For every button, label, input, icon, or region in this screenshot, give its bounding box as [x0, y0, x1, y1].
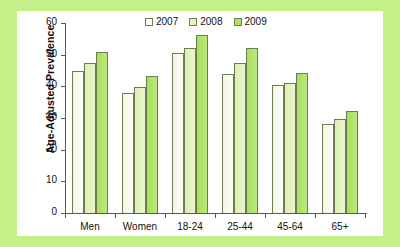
bar-2007-women[interactable]	[122, 93, 134, 213]
y-tick-label-20: 20	[17, 143, 57, 154]
y-tick-label-50: 50	[17, 48, 57, 59]
x-axis-label-18-24: 18-24	[165, 221, 215, 232]
bar-2007-65-[interactable]	[322, 124, 334, 213]
bar-groups	[65, 23, 365, 213]
x-tick-0	[65, 213, 66, 218]
bar-2007-45-64[interactable]	[272, 85, 284, 213]
bar-2007-men[interactable]	[72, 71, 84, 214]
bar-group-women	[115, 23, 165, 213]
y-tick-label-0: 0	[17, 206, 57, 217]
bar-2008-women[interactable]	[134, 87, 146, 213]
bar-2009-65-[interactable]	[346, 111, 358, 213]
chart-panel: Age-Adjusted Prevalence 2007 2008 2009 0…	[17, 11, 383, 236]
x-axis-label-women: Women	[115, 221, 165, 232]
bar-2008-men[interactable]	[84, 63, 96, 213]
x-axis-label-25-44: 25-44	[215, 221, 265, 232]
x-axis-label-65-: 65+	[315, 221, 365, 232]
y-tick-label-60: 60	[17, 16, 57, 27]
y-tick-label-30: 30	[17, 111, 57, 122]
x-tick-2	[165, 213, 166, 218]
bar-2008-45-64[interactable]	[284, 83, 296, 213]
x-axis-label-men: Men	[65, 221, 115, 232]
bar-2009-25-44[interactable]	[246, 48, 258, 213]
bar-2009-men[interactable]	[96, 52, 108, 214]
bar-group-25-44	[215, 23, 265, 213]
bar-2007-25-44[interactable]	[222, 74, 234, 213]
bar-2009-18-24[interactable]	[196, 35, 208, 213]
bar-2008-65-[interactable]	[334, 119, 346, 213]
plot-area	[65, 23, 365, 213]
bar-group-65-	[315, 23, 365, 213]
bar-group-18-24	[165, 23, 215, 213]
chart-figure: Age-Adjusted Prevalence 2007 2008 2009 0…	[0, 0, 400, 247]
bar-2008-18-24[interactable]	[184, 48, 196, 213]
x-tick-3	[215, 213, 216, 218]
x-axis-label-45-64: 45-64	[265, 221, 315, 232]
x-axis-line	[65, 213, 367, 214]
bar-2008-25-44[interactable]	[234, 63, 246, 213]
bar-2009-women[interactable]	[146, 76, 158, 213]
bar-group-men	[65, 23, 115, 213]
bar-2009-45-64[interactable]	[296, 73, 308, 213]
x-tick-1	[115, 213, 116, 218]
x-tick-5	[315, 213, 316, 218]
y-tick-label-10: 10	[17, 174, 57, 185]
y-tick-label-40: 40	[17, 79, 57, 90]
x-tick-6	[365, 213, 366, 218]
bar-2007-18-24[interactable]	[172, 53, 184, 213]
x-tick-4	[265, 213, 266, 218]
bar-group-45-64	[265, 23, 315, 213]
